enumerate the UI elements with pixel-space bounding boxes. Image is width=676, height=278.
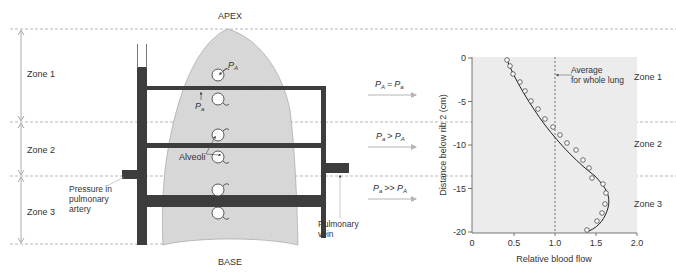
x-axis-label: Relative blood flow (516, 254, 592, 264)
y-tick-labels: 0 -5 -10 -15 -20 (453, 53, 466, 237)
zone-2-label: Zone 2 (27, 145, 55, 155)
vein-label-line2: vein (318, 229, 334, 239)
svg-text:-10: -10 (453, 140, 466, 150)
svg-text:2.0: 2.0 (631, 238, 644, 248)
chart-zone-1-label: Zone 1 (634, 72, 662, 82)
average-annotation-line1: Average (571, 65, 603, 75)
x-tick-labels: 0 0.5 1.0 1.5 2.0 (469, 238, 643, 248)
artery-label-line1: Pressure in (69, 184, 112, 194)
svg-text:-5: -5 (458, 97, 466, 107)
alveoli-label: Alveoli (179, 152, 206, 162)
lung-zones-figure: APEX Zone 1 Zone 2 Zone 3 (0, 0, 676, 278)
svg-text:-15: -15 (453, 184, 466, 194)
svg-text:0: 0 (461, 53, 466, 63)
chart-zone-3-label: Zone 3 (634, 199, 662, 209)
svg-text:1.0: 1.0 (549, 238, 562, 248)
chart-zone-2-label: Zone 2 (634, 139, 662, 149)
svg-text:1.5: 1.5 (590, 238, 603, 248)
svg-text:0: 0 (469, 238, 474, 248)
base-label: BASE (218, 257, 242, 267)
average-annotation-line2: for whole lung (571, 75, 624, 85)
zone-1-label: Zone 1 (27, 69, 55, 79)
artery-label-line3: artery (69, 204, 91, 214)
vein-label-line1: Pulmonary (318, 219, 359, 229)
zone-2-relation: Pa>PA (376, 131, 405, 142)
zone-range-arrows (18, 30, 24, 243)
zone-1-relation: PA=Pa (375, 79, 404, 90)
blood-flow-chart: 0 -5 -10 -15 -20 0 0.5 1.0 1.5 2.0 Relat… (438, 53, 662, 264)
zone-3-relation: Pa>>PA (373, 183, 407, 194)
zone-3-label: Zone 3 (27, 207, 55, 217)
apex-label: APEX (218, 11, 242, 21)
y-axis-label: Distance below rib 2 (cm) (438, 94, 448, 196)
artery-label-line2: pulmonary (69, 194, 109, 204)
svg-text:0.5: 0.5 (508, 238, 521, 248)
svg-text:-20: -20 (453, 227, 466, 237)
